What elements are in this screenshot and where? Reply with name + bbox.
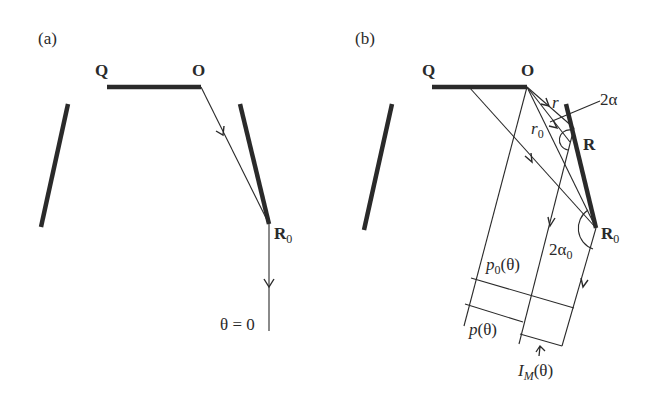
label-r: r xyxy=(552,94,559,111)
point-r0-b: R0 xyxy=(601,225,619,245)
two-alpha0-main: 2α xyxy=(549,240,566,259)
left-wall-b xyxy=(364,104,392,230)
label-im-theta: IM(θ) xyxy=(518,362,553,382)
ray-o-r0-b xyxy=(527,87,596,228)
panel-a-geometry xyxy=(41,87,274,331)
theta-zero-label: θ = 0 xyxy=(220,316,255,333)
r0-sub: 0 xyxy=(613,232,619,246)
two-alpha0-sub: 0 xyxy=(566,248,572,262)
p-arg: (θ) xyxy=(478,320,497,339)
arrow-icon xyxy=(536,346,545,356)
arrow-icon xyxy=(581,278,588,287)
left-wall-a xyxy=(41,104,68,227)
point-r-b: R xyxy=(583,136,595,153)
im-bar xyxy=(520,334,562,346)
r0-main: r xyxy=(531,119,538,138)
right-wall-b xyxy=(566,104,596,228)
p0-arg: (θ) xyxy=(501,255,520,274)
r0-sub: 0 xyxy=(286,232,292,246)
line-o-down xyxy=(464,87,527,326)
panel-b-label: (b) xyxy=(355,30,375,47)
p0-main: p xyxy=(486,255,495,274)
p-main: p xyxy=(469,320,478,339)
r0-sub: 0 xyxy=(538,127,544,141)
reflected-ray-r xyxy=(519,128,574,344)
point-r0-a: R0 xyxy=(274,225,292,245)
r0-main: R xyxy=(274,224,286,243)
label-p-theta: p(θ) xyxy=(469,321,497,338)
point-o-a: O xyxy=(192,62,205,79)
label-r0: r0 xyxy=(531,120,544,140)
panel-b-geometry xyxy=(364,87,600,356)
p0-bar xyxy=(471,278,574,308)
im-arg: (θ) xyxy=(534,361,553,380)
label-p0-theta: p0(θ) xyxy=(486,256,520,276)
panel-a-label: (a) xyxy=(38,30,57,47)
label-2alpha: 2α xyxy=(600,91,617,108)
r0-main: R xyxy=(601,224,613,243)
point-q-a: Q xyxy=(95,62,108,79)
point-o-b: O xyxy=(521,62,534,79)
ray-o-r0-a xyxy=(201,87,269,224)
arrow-icon xyxy=(216,126,224,135)
label-2alpha0: 2α0 xyxy=(549,241,572,261)
right-wall-a xyxy=(240,104,269,224)
arrow-icon xyxy=(525,153,532,162)
im-sub: M xyxy=(524,369,534,383)
point-q-b: Q xyxy=(422,62,435,79)
